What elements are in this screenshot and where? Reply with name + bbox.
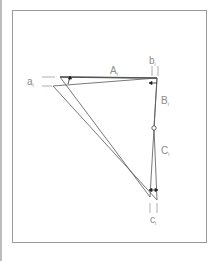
label-c: ci <box>150 215 156 226</box>
label-C: Ci <box>161 146 169 157</box>
arrow-b-head <box>149 82 152 85</box>
triangle-diagram <box>0 0 219 261</box>
label-a: ai <box>27 77 34 88</box>
arrow-c-head-2 <box>155 189 158 192</box>
arrow-c-head <box>149 189 152 192</box>
triangle-outline-1 <box>60 77 157 197</box>
triangle-outline-2 <box>53 78 157 200</box>
side-A-line <box>60 77 157 78</box>
pivot-circle <box>152 126 156 130</box>
label-b: bi <box>149 56 156 67</box>
label-B: Bi <box>161 96 169 107</box>
label-A: Ai <box>110 66 118 77</box>
